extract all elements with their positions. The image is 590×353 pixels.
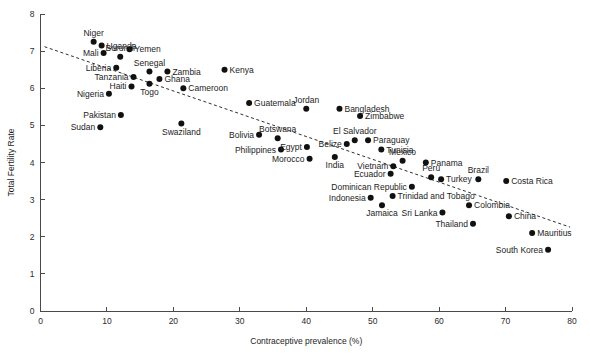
data-point: Zimbabwe — [357, 111, 404, 121]
point-marker — [352, 137, 358, 143]
point-label: Yemen — [135, 44, 161, 54]
point-label: Jamaica — [366, 208, 398, 218]
y-tick-label: 1 — [30, 269, 35, 279]
data-point: Trinidad and Tobago — [390, 191, 475, 201]
point-marker — [409, 184, 415, 190]
data-point: Belize — [319, 139, 350, 149]
point-marker — [99, 43, 105, 49]
point-label: Botswana — [259, 124, 297, 134]
data-point: Niger — [83, 28, 103, 45]
point-label: Zimbabwe — [365, 111, 404, 121]
data-point: Morocco — [272, 154, 313, 164]
data-point: Senegal — [134, 58, 165, 75]
point-marker — [117, 54, 123, 60]
scatter-chart: 01020304050607080012345678 NigerUgandaMa… — [0, 0, 590, 353]
point-marker — [475, 176, 481, 182]
point-label: Morocco — [272, 154, 305, 164]
point-label: Colombia — [474, 200, 510, 210]
point-marker — [156, 76, 162, 82]
point-label: Mauritius — [537, 228, 571, 238]
data-point: Nigeria — [77, 89, 112, 99]
point-marker — [307, 156, 313, 162]
data-point: Jamaica — [366, 202, 398, 218]
x-tick-label: 10 — [102, 316, 112, 326]
y-tick-label: 6 — [30, 83, 35, 93]
point-label: Bolivia — [229, 130, 254, 140]
y-tick-label: 5 — [30, 120, 35, 130]
data-points-group: NigerUgandaMaliYemenBurundiLiberiaSenega… — [71, 28, 572, 255]
point-label: India — [326, 160, 345, 170]
y-tick-label: 7 — [30, 46, 35, 56]
point-marker — [438, 176, 444, 182]
point-label: Jordan — [293, 95, 319, 105]
point-marker — [304, 144, 310, 150]
data-point: Swaziland — [162, 121, 201, 137]
x-tick-label: 0 — [38, 316, 43, 326]
point-marker — [357, 113, 363, 119]
point-label: Burundi — [106, 43, 135, 53]
point-label: Turkey — [446, 174, 472, 184]
data-point: Burundi — [106, 43, 135, 60]
data-point: Thailand — [435, 219, 476, 229]
point-marker — [146, 69, 152, 75]
point-marker — [439, 210, 445, 216]
point-label: China — [514, 211, 536, 221]
point-label: Belize — [319, 139, 342, 149]
point-label: Thailand — [435, 219, 468, 229]
point-label: Indonesia — [329, 193, 366, 203]
point-marker — [545, 247, 551, 253]
y-tick-label: 0 — [30, 306, 35, 316]
x-tick-label: 80 — [567, 316, 577, 326]
point-marker — [344, 141, 350, 147]
plot-area: 01020304050607080012345678 NigerUgandaMa… — [0, 0, 590, 353]
point-label: Niger — [83, 28, 103, 38]
x-tick-label: 60 — [434, 316, 444, 326]
x-tick-label: 70 — [501, 316, 511, 326]
point-label: Mali — [83, 48, 99, 58]
data-point: South Korea — [496, 245, 551, 255]
point-label: Ghana — [164, 74, 190, 84]
point-marker — [378, 147, 384, 153]
x-tick-label: 20 — [169, 316, 179, 326]
point-marker — [97, 124, 103, 130]
point-marker — [303, 106, 309, 112]
data-point: Bolivia — [229, 130, 262, 140]
point-marker — [91, 39, 97, 45]
data-point: Turkey — [438, 174, 472, 184]
point-marker — [506, 213, 512, 219]
x-axis-title: Contraceptive prevalence (%) — [250, 336, 362, 346]
data-point: Sudan — [71, 122, 104, 132]
point-marker — [246, 100, 252, 106]
point-marker — [106, 91, 112, 97]
x-tick-label: 50 — [368, 316, 378, 326]
point-marker — [222, 67, 228, 73]
point-label: Swaziland — [162, 127, 201, 137]
point-label: Mexico — [389, 147, 416, 157]
axes: 01020304050607080012345678 — [30, 9, 577, 326]
data-point: Jordan — [293, 95, 319, 112]
point-label: El Salvador — [333, 126, 377, 136]
data-point: Kenya — [222, 65, 254, 75]
point-label: Dominican Republic — [331, 182, 407, 192]
x-tick-label: 40 — [302, 316, 312, 326]
point-marker — [466, 202, 472, 208]
data-point: Peru — [422, 163, 440, 180]
data-point: Costa Rica — [503, 176, 553, 186]
data-point: Pakistan — [83, 110, 124, 120]
data-point: Sri Lanka — [402, 208, 446, 218]
data-point: Colombia — [466, 200, 510, 210]
data-point: Cameroon — [180, 83, 228, 93]
point-label: Sri Lanka — [402, 208, 438, 218]
point-marker — [470, 221, 476, 227]
point-marker — [368, 195, 374, 201]
point-marker — [390, 163, 396, 169]
x-tick-label: 30 — [235, 316, 245, 326]
point-label: Egypt — [280, 142, 302, 152]
point-label: South Korea — [496, 245, 544, 255]
data-point: Mauritius — [529, 228, 571, 238]
point-marker — [180, 85, 186, 91]
point-marker — [388, 171, 394, 177]
point-marker — [428, 174, 434, 180]
point-label: Peru — [422, 163, 440, 173]
point-label: Nigeria — [77, 89, 104, 99]
